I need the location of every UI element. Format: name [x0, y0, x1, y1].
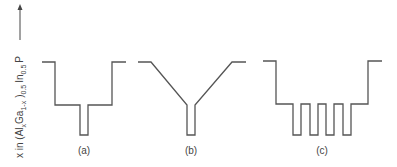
panel-label-a: (a)	[78, 145, 90, 156]
profile-c	[263, 61, 382, 135]
profile-a	[42, 62, 126, 135]
panel-label-c: (c)	[316, 145, 328, 156]
axis-arrow-icon	[18, 4, 23, 40]
profile-b	[138, 62, 246, 135]
band-profile-diagram: x in (AlxGa1-x)0.5In0.5P	[0, 0, 397, 167]
y-axis-label: x in (AlxGa1-x)0.5In0.5P	[14, 56, 27, 158]
panel-label-b: (b)	[185, 145, 197, 156]
